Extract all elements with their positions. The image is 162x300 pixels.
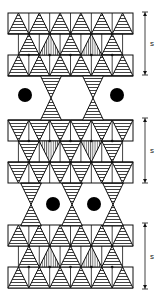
tetrahedron-icon (39, 246, 60, 267)
tetrahedron-icon (41, 98, 62, 120)
tetrahedron-icon (62, 205, 83, 227)
tetrahedron-icon (81, 141, 102, 162)
layered-structure-diagram: s s s (0, 0, 162, 300)
spacing-arrows (142, 12, 148, 289)
layer-3 (8, 225, 133, 288)
tetrahedron-icon (39, 34, 60, 55)
tetrahedron-icon (103, 205, 124, 227)
interlayer-1 (18, 76, 124, 120)
tetrahedron-icon (18, 141, 39, 162)
cation-icon (87, 197, 101, 211)
tetrahedron-icon (60, 246, 81, 267)
tetrahedron-icon (103, 183, 124, 205)
tetrahedron-icon (102, 141, 123, 162)
tetrahedron-icon (21, 183, 42, 205)
tetrahedron-icon (41, 76, 62, 98)
spacing-arrow-1 (142, 12, 148, 75)
tetrahedron-icon (18, 34, 39, 55)
tetrahedron-icon (83, 76, 104, 98)
tetrahedron-icon (102, 246, 123, 267)
interlayer-2 (21, 183, 124, 226)
spacing-label-1: s (150, 39, 154, 48)
tetrahedron-icon (21, 205, 42, 227)
layer-2 (8, 120, 133, 183)
spacing-label-2: s (150, 146, 154, 155)
cation-icon (110, 88, 124, 102)
tetrahedron-icon (81, 34, 102, 55)
spacing-label-3: s (150, 252, 154, 261)
tetrahedron-icon (102, 34, 123, 55)
cation-icon (18, 88, 32, 102)
tetrahedron-icon (81, 246, 102, 267)
tetrahedron-icon (60, 141, 81, 162)
layer-1 (8, 13, 133, 76)
tetrahedron-icon (60, 34, 81, 55)
layer-blocks (8, 13, 133, 288)
tetrahedron-icon (62, 183, 83, 205)
cation-icon (46, 197, 60, 211)
spacing-arrow-3 (142, 223, 148, 289)
tetrahedron-icon (39, 141, 60, 162)
structure-drawing (0, 0, 162, 300)
tetrahedron-icon (83, 98, 104, 120)
tetrahedron-icon (18, 246, 39, 267)
spacing-arrow-2 (142, 118, 148, 183)
